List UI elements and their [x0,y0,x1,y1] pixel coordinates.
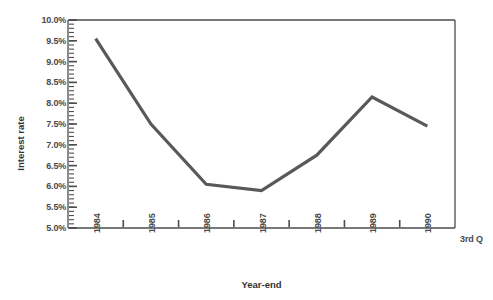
x-axis-tick-label: 1990 [423,213,433,233]
line-chart: 10.0%9.5%9.0%8.5%8.0%7.5%7.0%6.5%6.0%5.5… [0,0,493,300]
x-axis-extra-label: 3rd Q [460,234,483,244]
x-axis-tick-labels: 19841985198619871988198919903rd Q [0,0,493,300]
x-axis-tick-label: 1985 [147,213,157,233]
y-axis-title: Interest rate [15,94,26,194]
x-axis-tick-label: 1989 [368,213,378,233]
x-axis-title: Year-end [68,279,455,290]
x-axis-tick-label: 1988 [313,213,323,233]
x-axis-tick-label: 1986 [202,213,212,233]
x-axis-tick-label: 1987 [258,213,268,233]
x-axis-tick-label: 1984 [92,213,102,233]
